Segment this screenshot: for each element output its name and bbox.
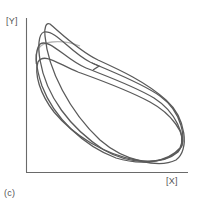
- limit-cycle-loops: [36, 24, 184, 164]
- phase-plot: [0, 0, 202, 204]
- phase-plane-figure: [Y] [X] (c): [0, 0, 202, 204]
- panel-label: (c): [4, 189, 15, 198]
- direction-arrow-icon: [92, 63, 99, 70]
- x-axis-label: [X]: [166, 177, 178, 186]
- y-axis-label: [Y]: [6, 17, 18, 26]
